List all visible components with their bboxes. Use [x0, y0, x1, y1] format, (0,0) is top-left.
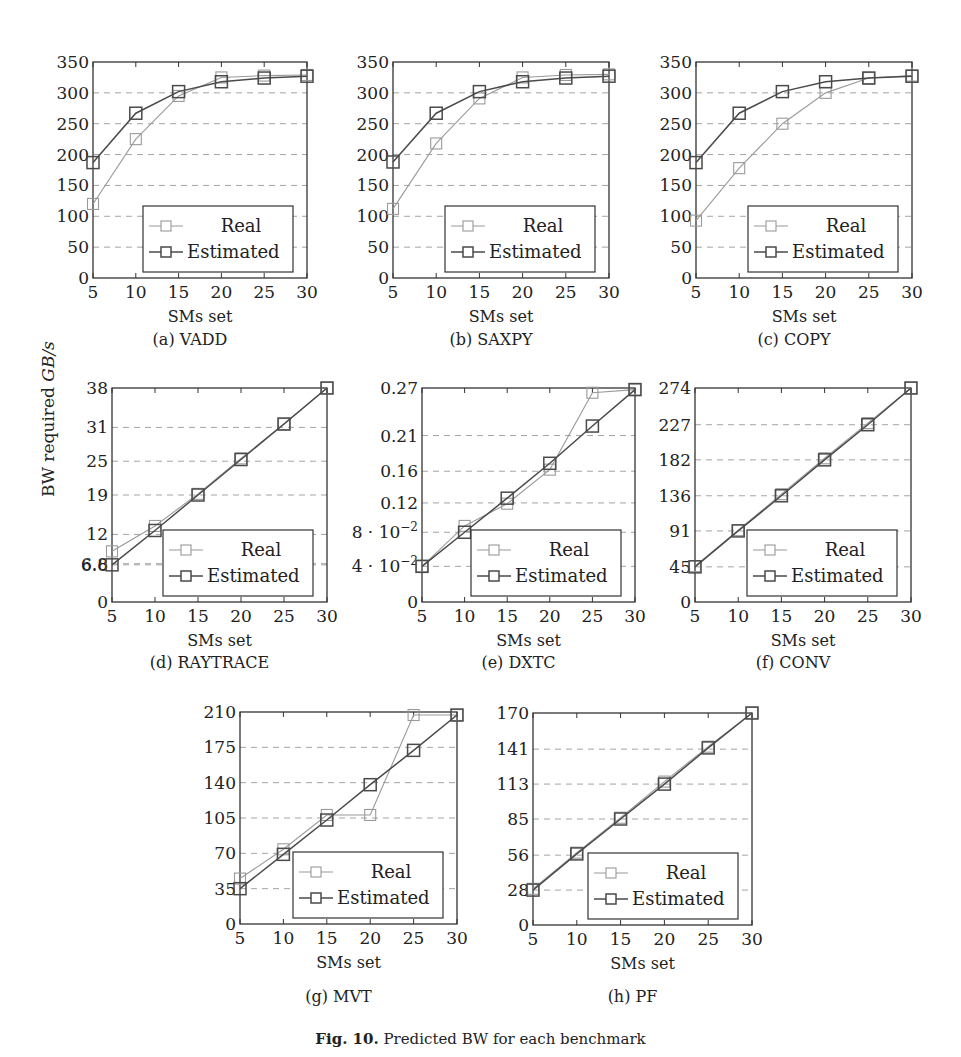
x-tick-label: 30: [316, 606, 338, 626]
x-tick-label: 25: [582, 606, 604, 626]
y-tick-label: 28: [507, 880, 529, 900]
legend-marker-real: [161, 221, 171, 231]
x-axis-title: SMs set: [771, 631, 836, 650]
legend: RealEstimated: [143, 206, 293, 272]
subfigure-caption: (a) VADD: [153, 330, 228, 349]
legend: RealEstimated: [445, 206, 595, 272]
chart-c: 51015202530050100150200250300350RealEsti…: [660, 52, 923, 349]
y-tick-label: 200: [57, 145, 89, 165]
legend-box: [471, 530, 621, 596]
x-tick-label: 15: [496, 606, 518, 626]
y-tick-label: 0.12: [380, 493, 418, 513]
y-tick-label: 0.27: [380, 378, 418, 398]
x-tick-label: 20: [814, 606, 836, 626]
y-axis-title-text: BW required: [38, 382, 58, 497]
x-tick-label: 30: [900, 606, 922, 626]
y-tick-label: 300: [357, 83, 389, 103]
y-tick-label: 85: [507, 809, 529, 829]
legend-label-estimated: Estimated: [187, 241, 280, 262]
chart-a: 51015202530050100150200250300350RealEsti…: [57, 52, 318, 349]
series-line-estimated: [93, 76, 307, 162]
y-tick-label: 250: [57, 114, 89, 134]
y-tick-label: 0: [518, 915, 529, 935]
y-tick-label: 0: [680, 592, 691, 612]
x-tick-label: 25: [857, 606, 879, 626]
x-tick-label: 15: [187, 606, 209, 626]
x-tick-label: 15: [316, 928, 338, 948]
legend-marker-real: [765, 545, 775, 555]
y-tick-label: 0: [407, 592, 418, 612]
y-tick-label: 113: [497, 774, 529, 794]
y-tick-label: 210: [204, 702, 236, 722]
chart-e: 5101520253004 · 10−28 · 10−20.120.160.21…: [352, 378, 646, 672]
chart-d: 5101520253006.66.81219253138RealEstimate…: [81, 378, 338, 672]
y-tick-label: 300: [660, 83, 692, 103]
x-tick-label: 25: [253, 282, 275, 302]
legend-marker-estimated: [606, 894, 616, 904]
legend-box: [445, 206, 595, 272]
x-tick-label: 20: [815, 282, 837, 302]
x-tick-label: 15: [772, 282, 794, 302]
legend-marker-estimated: [489, 571, 499, 581]
legend: RealEstimated: [588, 853, 738, 919]
figure-caption-text: Predicted BW for each benchmark: [383, 1030, 645, 1048]
legend-box: [747, 530, 897, 596]
chart-f: 5101520253004591136182227274RealEstimate…: [659, 378, 922, 672]
legend-marker-real: [311, 867, 321, 877]
legend-marker-real: [181, 545, 191, 555]
x-axis-title: SMs set: [610, 954, 675, 973]
x-tick-label: 5: [690, 606, 701, 626]
legend-label-estimated: Estimated: [489, 241, 582, 262]
x-tick-label: 25: [555, 282, 577, 302]
y-tick-label: 35: [214, 879, 236, 899]
subfigure-caption: (h) PF: [608, 987, 658, 1006]
x-tick-label: 5: [107, 606, 118, 626]
x-tick-label: 15: [168, 282, 190, 302]
x-axis-title: SMs set: [187, 631, 252, 650]
legend-marker-estimated: [181, 571, 191, 581]
y-tick-label: 0: [78, 268, 89, 288]
legend-marker-estimated: [766, 247, 776, 257]
legend-marker-estimated: [765, 571, 775, 581]
y-tick-label: 6.8: [81, 554, 108, 574]
legend-box: [748, 206, 898, 272]
y-tick-label: 0: [378, 268, 389, 288]
subfigure-caption: (b) SAXPY: [449, 330, 532, 349]
y-tick-label: 141: [497, 739, 529, 759]
series-line-real: [696, 76, 912, 221]
x-tick-label: 10: [454, 606, 476, 626]
series-line-estimated: [696, 76, 912, 162]
series-line-real: [93, 75, 307, 204]
x-tick-label: 30: [741, 929, 763, 949]
y-tick-label: 350: [57, 52, 89, 72]
legend-marker-real: [606, 868, 616, 878]
y-axis-title: BW required GB/s: [38, 341, 58, 497]
legend-label-estimated: Estimated: [515, 565, 608, 586]
y-tick-label: 12: [86, 524, 108, 544]
x-tick-label: 15: [469, 282, 491, 302]
legend-label-real: Real: [371, 861, 412, 882]
x-tick-label: 5: [235, 928, 246, 948]
y-tick-label: 175: [204, 737, 236, 757]
series-line-real: [112, 388, 327, 551]
x-tick-label: 20: [539, 606, 561, 626]
y-tick-label: 70: [214, 843, 236, 863]
y-axis-title-unit: GB/s: [38, 341, 58, 382]
x-tick-label: 10: [728, 282, 750, 302]
x-axis-title: SMs set: [316, 953, 381, 972]
y-tick-label: 0.21: [380, 426, 418, 446]
y-tick-label: 250: [357, 114, 389, 134]
legend-box: [163, 530, 313, 596]
x-tick-label: 20: [512, 282, 534, 302]
subfigure-caption: (g) MVT: [305, 987, 372, 1006]
x-tick-label: 5: [88, 282, 99, 302]
series-line-real: [393, 74, 609, 209]
y-tick-label: 50: [670, 237, 692, 257]
y-tick-label: 350: [660, 52, 692, 72]
y-tick-label: 45: [669, 557, 691, 577]
x-tick-label: 30: [446, 928, 468, 948]
y-tick-label: 105: [204, 808, 236, 828]
y-tick-label: 91: [669, 521, 691, 541]
chart-h: 510152025300285685113141170RealEstimated…: [497, 703, 763, 1006]
y-tick-label: 150: [57, 175, 89, 195]
